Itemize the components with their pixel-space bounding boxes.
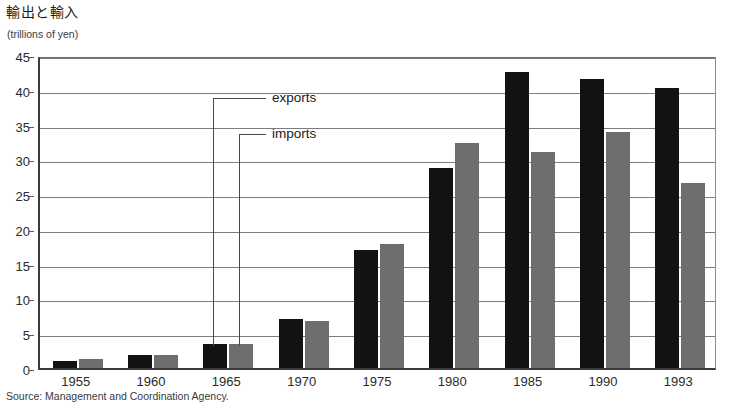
bar-imports-1975 (380, 244, 404, 369)
y-tick-mark-10 (29, 300, 34, 301)
y-tick-label-30: 30 (16, 154, 30, 169)
y-tick-label-45: 45 (16, 50, 30, 65)
y-tick-label-25: 25 (16, 189, 30, 204)
y-tick-label-15: 15 (16, 258, 30, 273)
bar-imports-1955 (79, 359, 103, 368)
bar-imports-1960 (154, 355, 178, 368)
y-tick-label-35: 35 (16, 119, 30, 134)
bar-imports-1970 (305, 321, 329, 368)
y-tick-mark-15 (29, 266, 34, 267)
x-tick-label-1970: 1970 (287, 374, 316, 389)
bar-imports-1993 (681, 183, 705, 368)
plot-area (38, 57, 716, 370)
y-tick-mark-0 (29, 370, 34, 371)
y-tick-mark-20 (29, 231, 34, 232)
x-tick-label-1990: 1990 (589, 374, 618, 389)
y-tick-mark-25 (29, 196, 34, 197)
y-tick-mark-35 (29, 127, 34, 128)
y-tick-label-20: 20 (16, 223, 30, 238)
y-axis: 051015202530354045 (0, 57, 34, 370)
bar-imports-1985 (531, 152, 555, 368)
bar-exports-1985 (505, 72, 529, 368)
y-tick-mark-40 (29, 92, 34, 93)
bar-imports-1990 (606, 132, 630, 368)
bar-exports-1965 (203, 344, 227, 368)
x-tick-label-1960: 1960 (137, 374, 166, 389)
bar-exports-1955 (53, 361, 77, 368)
y-tick-mark-30 (29, 161, 34, 162)
y-axis-unit-label: (trillions of yen) (7, 28, 78, 40)
source-note: Source: Management and Coordination Agen… (6, 390, 229, 402)
bar-imports-1965 (229, 344, 253, 368)
chart-page: 輸出と輸入 (trillions of yen) 051015202530354… (0, 0, 729, 406)
bar-imports-1980 (455, 143, 479, 368)
x-tick-label-1975: 1975 (363, 374, 392, 389)
bars-layer (40, 58, 715, 368)
x-tick-label-1993: 1993 (664, 374, 693, 389)
x-tick-label-1980: 1980 (438, 374, 467, 389)
y-tick-label-40: 40 (16, 84, 30, 99)
bar-exports-1960 (128, 355, 152, 368)
y-tick-label-10: 10 (16, 293, 30, 308)
bar-exports-1975 (354, 250, 378, 368)
y-tick-mark-5 (29, 335, 34, 336)
bar-exports-1993 (655, 88, 679, 368)
y-tick-mark-45 (29, 57, 34, 58)
x-tick-label-1955: 1955 (61, 374, 90, 389)
bar-exports-1990 (580, 79, 604, 368)
x-tick-label-1965: 1965 (212, 374, 241, 389)
x-tick-label-1985: 1985 (513, 374, 542, 389)
bar-exports-1980 (429, 168, 453, 368)
bar-exports-1970 (279, 319, 303, 368)
page-title: 輸出と輸入 (6, 1, 79, 21)
